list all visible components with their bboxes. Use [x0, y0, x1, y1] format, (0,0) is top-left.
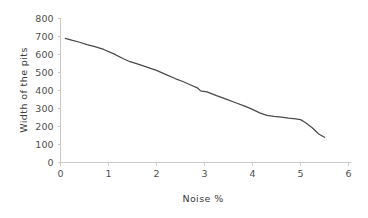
y-tick-label: 400	[35, 85, 53, 96]
chart-container: 0100200300400500600700800 0123456 Noise …	[0, 0, 368, 218]
y-axis-tick-labels: 0100200300400500600700800	[35, 13, 53, 168]
y-tick-label: 0	[47, 157, 53, 168]
y-tick-label: 500	[35, 67, 53, 78]
y-tick-label: 600	[35, 49, 53, 60]
x-axis-title: Noise %	[182, 193, 223, 204]
x-tick-label: 4	[249, 168, 255, 179]
line-chart: 0100200300400500600700800 0123456 Noise …	[0, 0, 368, 218]
x-axis-tick-labels: 0123456	[57, 168, 351, 179]
y-tick-label: 800	[35, 13, 53, 24]
x-tick-label: 3	[201, 168, 207, 179]
y-tick-label: 200	[35, 121, 53, 132]
y-tick-label: 700	[35, 31, 53, 42]
y-tick-label: 300	[35, 103, 53, 114]
x-tick-label: 2	[153, 168, 159, 179]
x-tick-label: 5	[297, 168, 303, 179]
y-axis-title: Width of the pits	[18, 47, 29, 133]
x-tick-label: 1	[105, 168, 111, 179]
data-series-line	[65, 38, 324, 137]
x-tick-label: 6	[345, 168, 351, 179]
y-tick-label: 100	[35, 139, 53, 150]
x-tick-label: 0	[57, 168, 63, 179]
